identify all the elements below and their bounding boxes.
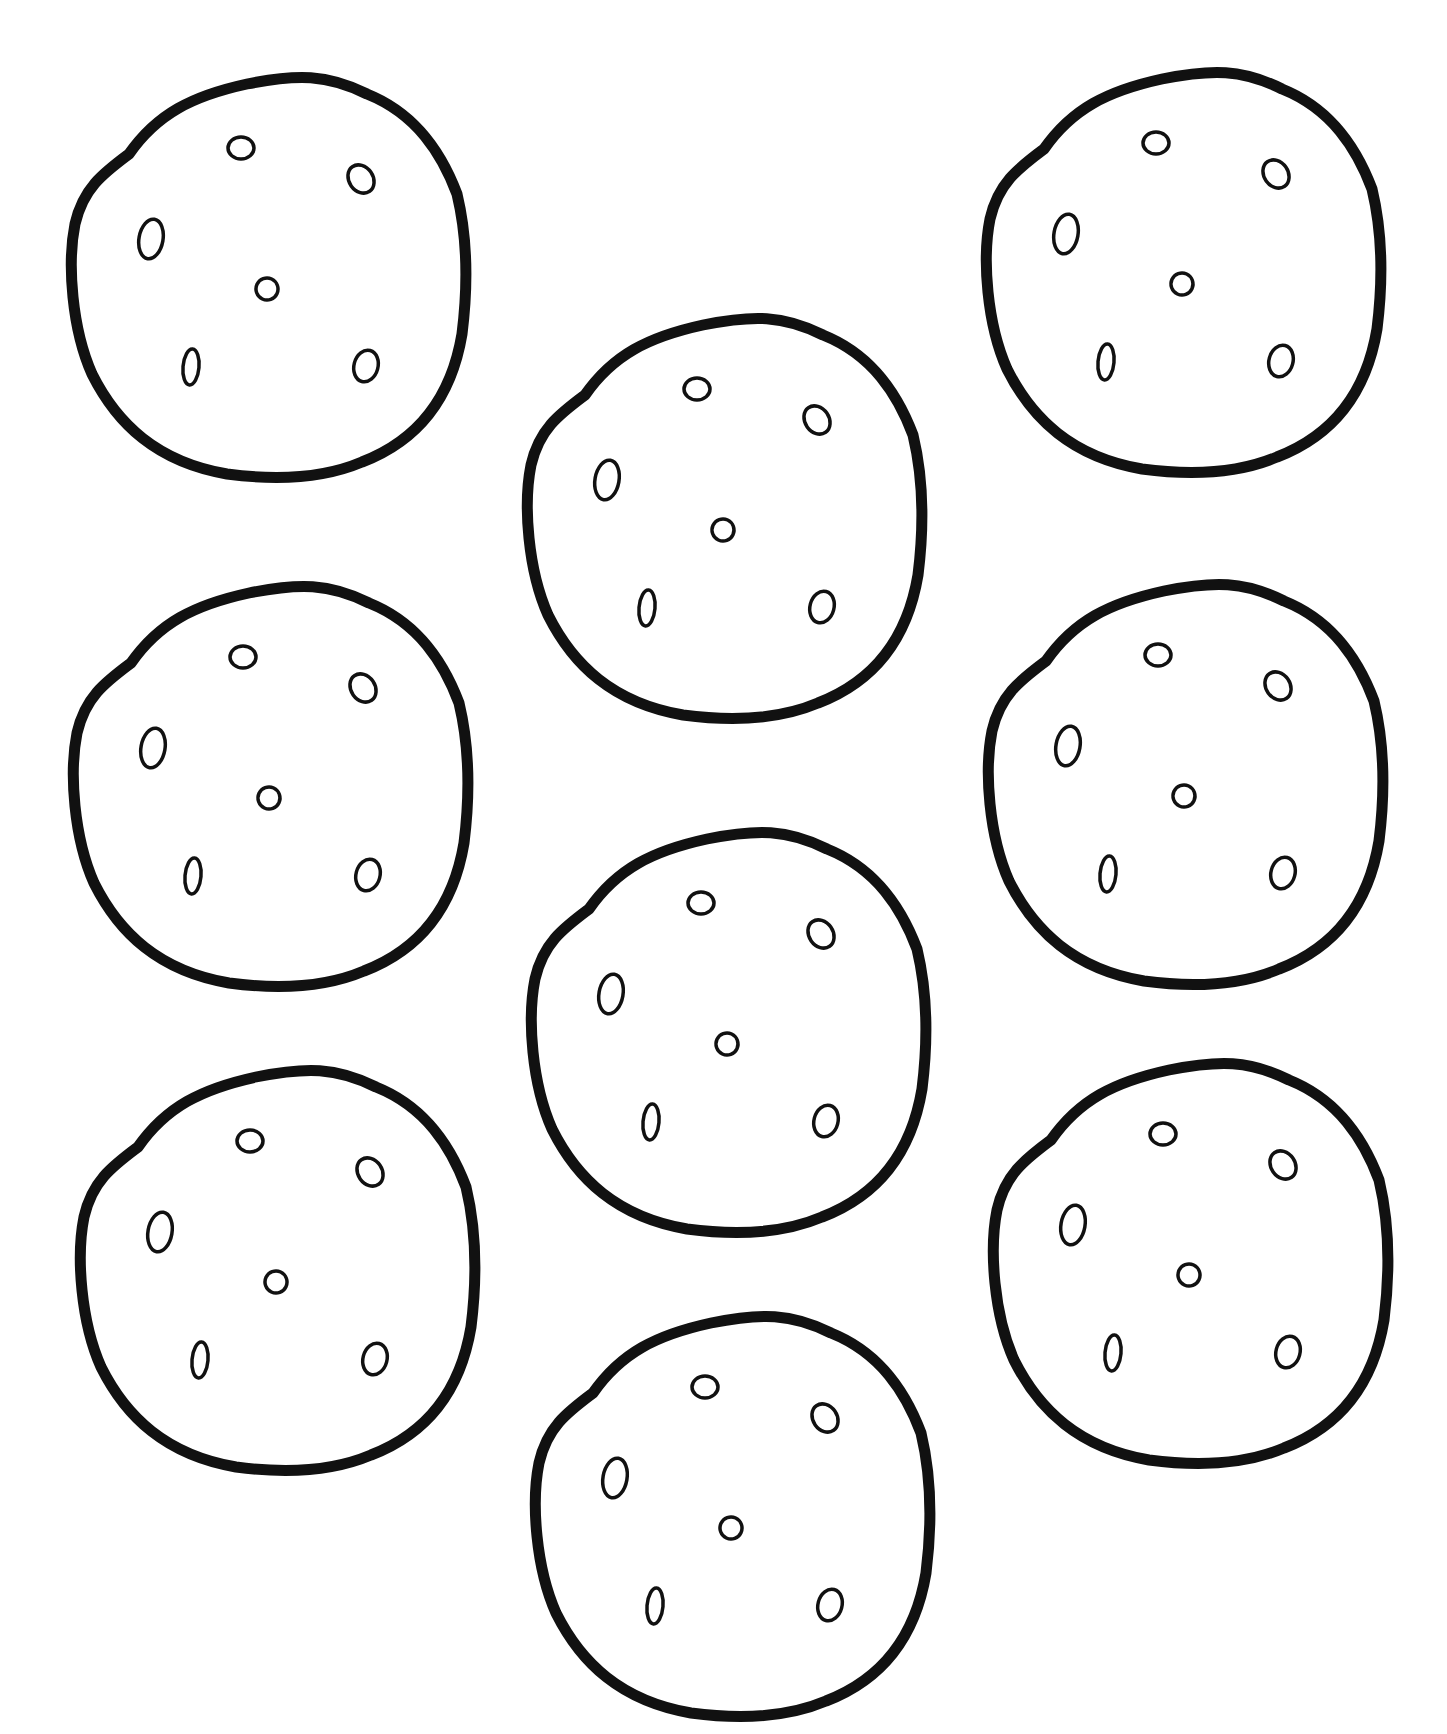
- cookie-lower-left: [80, 1070, 475, 1470]
- cookie-top-right: [986, 72, 1381, 472]
- cookie-top-left: [71, 77, 466, 477]
- cookie-lower-right: [993, 1063, 1388, 1463]
- cookie-upper-center: [527, 318, 922, 718]
- cookie-bottom-center: [535, 1316, 930, 1716]
- cookie-middle-right: [988, 584, 1383, 984]
- cookie-middle-left: [73, 586, 468, 986]
- cookie-center: [531, 832, 926, 1232]
- coloring-canvas: [0, 0, 1447, 1734]
